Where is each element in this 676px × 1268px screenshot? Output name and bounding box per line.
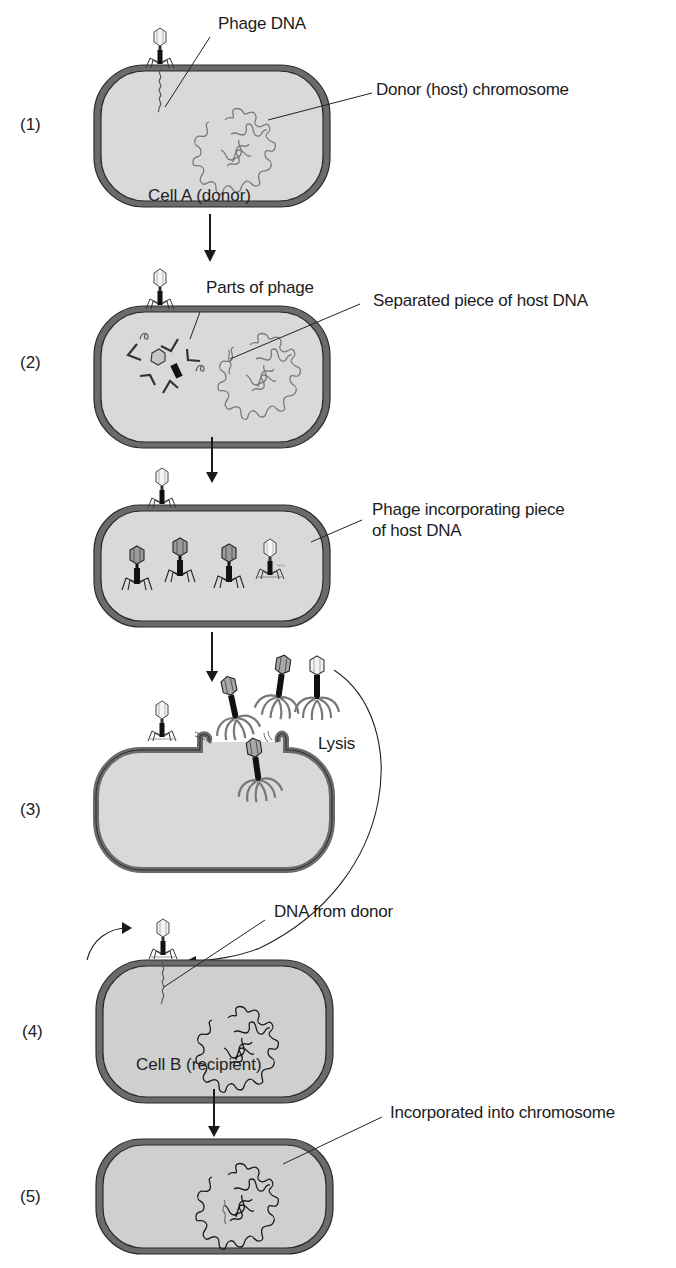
label-donor-chromosome: Donor (host) chromosome (376, 80, 569, 100)
label-phage-incorporating-2: of host DNA (372, 521, 461, 541)
cell-b-recipient (87, 919, 333, 1103)
label-phage-dna: Phage DNA (218, 14, 306, 34)
cell-a-phage-assembly (94, 468, 362, 627)
label-parts-of-phage: Parts of phage (206, 278, 314, 298)
cell-a-donor (94, 28, 372, 207)
step-number-5: (5) (20, 1187, 41, 1207)
label-incorporated-chromosome: Incorporated into chromosome (390, 1103, 615, 1123)
label-lysis: Lysis (318, 734, 355, 754)
caption-cell-b: Cell B (recipient) (136, 1055, 262, 1075)
label-separated-host-dna: Separated piece of host DNA (373, 291, 588, 311)
caption-cell-a: Cell A (donor) (148, 186, 251, 206)
label-dna-from-donor: DNA from donor (274, 902, 393, 922)
step-number-3: (3) (20, 800, 41, 820)
step-number-1: (1) (20, 115, 41, 135)
step-number-2: (2) (20, 353, 41, 373)
step-number-4: (4) (22, 1022, 43, 1042)
transduction-diagram (0, 0, 676, 1268)
cell-b-recombinant (96, 1117, 382, 1254)
label-phage-incorporating-1: Phage incorporating piece (372, 500, 565, 520)
